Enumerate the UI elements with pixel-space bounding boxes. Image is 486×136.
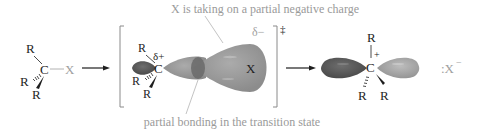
carbocation-charge: + — [374, 49, 380, 60]
product-r-right: R — [380, 88, 389, 103]
reaction-arrow — [82, 66, 110, 71]
dark-orbital-lobe — [132, 61, 156, 75]
reactant-leaving-group: X — [65, 62, 75, 77]
wedge-bond — [376, 74, 385, 85]
right-bracket — [273, 26, 277, 107]
reactant-r-bottom: R — [32, 87, 41, 102]
orbital-overlap — [191, 57, 205, 79]
ts-r-left: R — [132, 74, 140, 88]
empty-p-orbital-dark-lobe — [321, 58, 367, 79]
reactant: R C X R R — [20, 41, 75, 102]
sn1-mechanism-diagram: R C X R R ‡ — [0, 0, 486, 136]
annotation-partial-bonding: partial bonding in the transition state — [144, 115, 320, 129]
annotation-partial-negative: X is taking on a partial negative charge — [171, 2, 359, 16]
product-carbon: C — [366, 60, 375, 75]
leaving-anion: :X − — [441, 57, 462, 76]
leaving-anion-charge: − — [456, 57, 462, 68]
product-r-left: R — [358, 88, 367, 103]
double-dagger: ‡ — [280, 23, 286, 35]
partial-negative-label: δ− — [252, 25, 265, 39]
ts-carbon: C — [154, 61, 163, 76]
ts-r-bottom: R — [143, 87, 151, 101]
ts-r-top: R — [138, 41, 146, 55]
reactant-r-left: R — [20, 74, 29, 89]
empty-p-orbital-light-lobe — [377, 58, 419, 79]
hashed-bond — [33, 74, 41, 81]
carbocation-product: R + C R R — [321, 30, 419, 103]
hashed-bond — [363, 77, 369, 87]
reactant-r-top: R — [26, 41, 35, 56]
reactant-carbon: C — [40, 62, 49, 77]
left-bracket — [120, 26, 124, 107]
transition-state: ‡ R δ+ C R R X δ− — [120, 23, 286, 107]
annotation-leader-line — [205, 16, 223, 43]
reaction-arrow — [286, 66, 316, 71]
ts-leaving-group: X — [246, 61, 256, 76]
annotation-leader-line — [186, 80, 198, 114]
product-r-top: R — [367, 30, 376, 45]
leaving-anion-label: :X — [441, 61, 455, 76]
